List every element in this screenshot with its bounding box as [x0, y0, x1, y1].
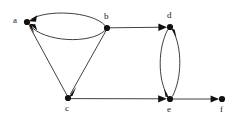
node-a[interactable] [24, 19, 30, 25]
edge-b-a-lower [30, 26, 105, 40]
edge-d-e-left [160, 30, 168, 96]
edge-c-a [30, 27, 67, 96]
arrowhead-e-f [211, 95, 219, 102]
node-b[interactable] [104, 25, 110, 31]
node-label-f: f [220, 105, 223, 114]
node-label-a: a [13, 16, 17, 25]
node-d[interactable] [167, 24, 173, 30]
graph-canvas [0, 0, 243, 120]
node-e[interactable] [167, 96, 173, 102]
edge-b-a-upper [31, 13, 106, 26]
edge-e-d-right [172, 30, 179, 97]
arrowhead-b-d [158, 23, 167, 31]
node-label-e: e [167, 105, 171, 114]
arrowhead-b-a-upper [29, 15, 37, 22]
edge-b-c [70, 31, 105, 94]
graph-figure: a b c d e f [0, 0, 243, 120]
arrowhead-b-c [69, 87, 76, 96]
node-label-c: c [65, 104, 69, 113]
edge-b-d [110, 27, 166, 28]
node-c[interactable] [65, 95, 71, 101]
node-label-d: d [167, 11, 172, 20]
node-f[interactable] [219, 96, 225, 102]
node-label-b: b [104, 12, 109, 21]
